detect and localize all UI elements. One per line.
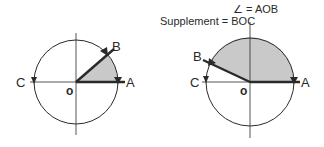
label-c: C — [16, 75, 25, 90]
diagram-acute: A B C o — [16, 33, 135, 135]
arrow-at-c-icon — [31, 77, 37, 84]
label-o: o — [66, 84, 73, 98]
label-a: A — [301, 75, 310, 90]
diagram-obtuse: A B C o — [190, 22, 310, 138]
label-b: B — [112, 39, 121, 54]
diagram-canvas: A B C o A B C o — [0, 0, 324, 147]
label-b: B — [193, 49, 202, 64]
label-a: A — [126, 75, 135, 90]
label-o: o — [240, 84, 247, 98]
label-c: C — [190, 75, 199, 90]
angle-aob-shade — [210, 37, 294, 82]
